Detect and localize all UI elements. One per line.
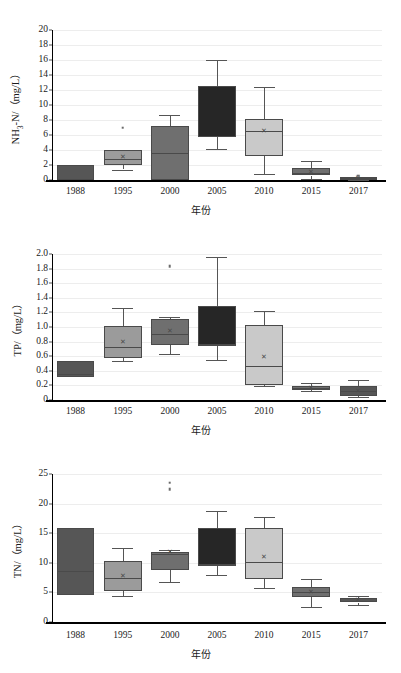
whisker-lower <box>264 156 265 174</box>
whisker-lower <box>170 570 171 582</box>
whisker-upper <box>217 511 218 528</box>
x-axis-line <box>46 400 386 402</box>
whisker-cap-lower <box>348 397 369 398</box>
y-tick-label: 0.8 <box>18 337 48 347</box>
median-line <box>57 571 95 572</box>
chart-panel-tp: TP/（mg/L）00.20.40.60.81.01.21.41.61.82.0… <box>0 230 401 452</box>
plot-area-tp: TP/（mg/L）00.20.40.60.81.01.21.41.61.82.0… <box>0 230 401 452</box>
y-axis-title: TN/（mg/L） <box>9 475 24 623</box>
box <box>57 165 95 180</box>
x-tick-label: 2010 <box>255 186 274 196</box>
box <box>198 306 236 345</box>
y-tick-label: 14 <box>18 70 48 80</box>
y-tick-label: 1.0 <box>18 322 48 332</box>
x-tick-label: 2015 <box>302 186 321 196</box>
x-tick-label: 2005 <box>208 186 227 196</box>
whisker-cap-lower <box>112 170 133 171</box>
whisker-cap-upper <box>254 87 275 88</box>
mean-marker: ✕ <box>120 573 126 580</box>
median-line <box>104 347 142 348</box>
x-tick-label: 2015 <box>302 406 321 416</box>
y-tick-label: 15 <box>18 528 48 538</box>
gridline <box>52 165 382 166</box>
mean-marker: ✕ <box>308 588 314 595</box>
whisker-cap-lower <box>301 607 322 608</box>
gridline <box>52 474 382 475</box>
chart-panel-nh3n: NH3-N/（mg/L）024681012141618201988✕199520… <box>0 0 401 230</box>
x-tick-label: 1988 <box>66 406 85 416</box>
x-tick-label: 2015 <box>302 630 321 640</box>
y-axis-line <box>52 254 53 400</box>
gridline <box>52 254 382 255</box>
y-tick-label: 8 <box>18 115 48 125</box>
y-tick-label: 4 <box>18 145 48 155</box>
whisker-cap-upper <box>348 380 369 381</box>
whisker-lower <box>217 137 218 150</box>
gridline <box>52 45 382 46</box>
x-tick-label: 2000 <box>160 630 179 640</box>
y-tick-label: 0.4 <box>18 366 48 376</box>
y-tick-label: 0 <box>18 395 48 405</box>
x-tick-label: 2010 <box>255 630 274 640</box>
gridline <box>52 504 382 505</box>
whisker-cap-lower <box>254 588 275 589</box>
y-tick-label: 2.0 <box>18 249 48 259</box>
whisker-cap-lower <box>112 361 133 362</box>
whisker-cap-upper <box>206 257 227 258</box>
median-line <box>151 153 189 154</box>
x-tick-label: 2017 <box>349 186 368 196</box>
box <box>198 86 236 137</box>
mean-marker: ✕ <box>261 128 267 135</box>
whisker-upper <box>217 257 218 306</box>
mean-marker: ✕ <box>355 387 361 394</box>
y-tick-label: 10 <box>18 100 48 110</box>
x-tick-label: 2010 <box>255 406 274 416</box>
y-tick-label: 16 <box>18 55 48 65</box>
whisker-cap-lower <box>159 582 180 583</box>
plot-area-nh3n: NH3-N/（mg/L）024681012141618201988✕199520… <box>0 0 401 230</box>
gridline <box>52 592 382 593</box>
x-axis-title: 年份 <box>0 422 401 437</box>
whisker-cap-upper <box>254 311 275 312</box>
y-tick-label: 0.2 <box>18 381 48 391</box>
y-tick-label: 1.8 <box>18 264 48 274</box>
whisker-cap-lower <box>206 360 227 361</box>
whisker-cap-lower <box>301 179 322 180</box>
whisker-cap-upper <box>301 579 322 580</box>
y-tick-label: 20 <box>18 25 48 35</box>
median-line <box>198 345 236 346</box>
whisker-upper <box>264 517 265 528</box>
y-tick-label: 20 <box>18 499 48 509</box>
mean-marker: ✕ <box>261 353 267 360</box>
whisker-upper <box>264 311 265 325</box>
whisker-cap-upper <box>206 511 227 512</box>
y-tick-label: 0.6 <box>18 351 48 361</box>
y-tick-label: 0 <box>18 175 48 185</box>
figure-page: NH3-N/（mg/L）024681012141618201988✕199520… <box>0 0 401 673</box>
x-tick-label: 2000 <box>160 406 179 416</box>
x-tick-label: 1995 <box>113 630 132 640</box>
whisker-upper <box>311 579 312 587</box>
whisker-cap-lower <box>348 605 369 606</box>
x-tick-label: 2000 <box>160 186 179 196</box>
x-axis-title: 年份 <box>0 202 401 217</box>
whisker-cap-lower <box>206 575 227 576</box>
whisker-lower <box>264 579 265 588</box>
y-tick-label: 10 <box>18 558 48 568</box>
whisker-lower <box>217 566 218 576</box>
median-line <box>198 564 236 565</box>
whisker-cap-upper <box>206 60 227 61</box>
whisker-cap-lower <box>112 596 133 597</box>
whisker-cap-upper <box>112 548 133 549</box>
outlier-point <box>121 127 124 130</box>
y-tick-label: 1.6 <box>18 278 48 288</box>
x-axis-title: 年份 <box>0 646 401 661</box>
mean-marker: ✕ <box>308 384 314 391</box>
whisker-cap-lower <box>254 386 275 387</box>
outlier-point <box>169 265 172 268</box>
median-line <box>57 374 95 375</box>
gridline <box>52 30 382 31</box>
whisker-cap-lower <box>254 174 275 175</box>
y-axis-line <box>52 30 53 180</box>
box <box>198 528 236 566</box>
